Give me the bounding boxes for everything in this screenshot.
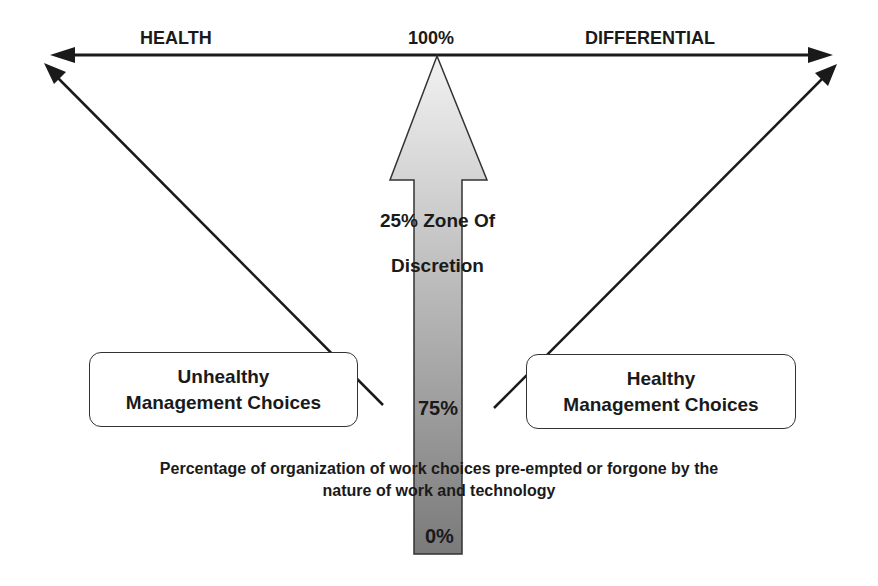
caption-line1: Percentage of organization of work choic… [80,458,798,480]
right-arrowhead-icon [808,47,833,63]
differential-label: DIFFERENTIAL [585,28,715,49]
zone-label-line2: Discretion [340,255,535,277]
caption-line2: nature of work and technology [80,480,798,502]
left-arrowhead-icon [50,47,75,63]
unhealthy-box-line2: Management Choices [90,390,357,416]
unhealthy-box-line1: Unhealthy [90,364,357,390]
seventy-five-percent-label: 75% [418,397,458,420]
healthy-box-line2: Management Choices [527,392,795,418]
zero-percent-label: 0% [425,525,454,548]
up-left-arrowhead-icon [44,63,66,84]
healthy-choices-box: Healthy Management Choices [526,354,796,429]
health-label: HEALTH [140,28,212,49]
unhealthy-choices-box: Unhealthy Management Choices [89,352,358,427]
healthy-box-line1: Healthy [527,366,795,392]
hundred-percent-label: 100% [408,28,454,49]
caption: Percentage of organization of work choic… [80,458,798,502]
health-differential-axis [50,47,833,63]
zone-label-line1: 25% Zone Of [340,210,535,232]
